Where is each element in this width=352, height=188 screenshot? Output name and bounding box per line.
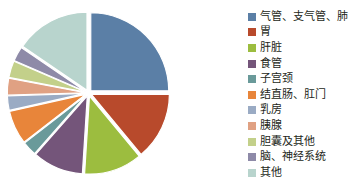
legend-item-label: 胃: [260, 26, 271, 38]
legend-item[interactable]: 结直肠、肛门: [240, 87, 352, 103]
legend-swatch-icon: [248, 138, 256, 146]
legend-item-label: 子宫颈: [260, 73, 293, 85]
legend-item[interactable]: 胃: [240, 25, 352, 41]
legend-swatch-icon: [248, 44, 256, 52]
pie-chart-plot-area: [0, 0, 240, 188]
pie-chart-figure: 气管、支气管、肺胃肝脏食管子宫颈结直肠、肛门乳房胰腺胆囊及其他脑、神经系统其他: [0, 0, 352, 188]
legend-item[interactable]: 肝脏: [240, 40, 352, 56]
legend-swatch-icon: [248, 122, 256, 130]
legend-item[interactable]: 乳房: [240, 103, 352, 119]
legend-swatch-icon: [248, 91, 256, 99]
legend-item[interactable]: 食管: [240, 56, 352, 72]
legend-swatch-icon: [248, 13, 256, 21]
legend-item[interactable]: 子宫颈: [240, 71, 352, 87]
legend-item-label: 结直肠、肛门: [260, 89, 326, 101]
legend-swatch-icon: [248, 169, 256, 177]
legend-swatch-icon: [248, 153, 256, 161]
pie-chart-svg: [0, 0, 240, 188]
legend-item[interactable]: 脑、神经系统: [240, 149, 352, 165]
legend-swatch-icon: [248, 75, 256, 83]
legend-item-label: 脑、神经系统: [260, 151, 326, 163]
legend-swatch-icon: [248, 28, 256, 36]
chart-legend: 气管、支气管、肺胃肝脏食管子宫颈结直肠、肛门乳房胰腺胆囊及其他脑、神经系统其他: [240, 0, 352, 188]
legend-item-label: 肝脏: [260, 42, 282, 54]
legend-item-label: 气管、支气管、肺: [260, 11, 348, 23]
legend-swatch-icon: [248, 60, 256, 68]
legend-item-label: 食管: [260, 58, 282, 70]
pie-slice-group: [7, 12, 169, 174]
legend-item-label: 其他: [260, 167, 282, 179]
pie-slice[interactable]: [91, 13, 169, 91]
legend-item[interactable]: 胰腺: [240, 118, 352, 134]
legend-swatch-icon: [248, 106, 256, 114]
legend-item[interactable]: 胆囊及其他: [240, 134, 352, 150]
legend-item[interactable]: 其他: [240, 165, 352, 181]
legend-item-label: 胆囊及其他: [260, 136, 315, 148]
legend-item-label: 乳房: [260, 104, 282, 116]
legend-item-label: 胰腺: [260, 120, 282, 132]
legend-item[interactable]: 气管、支气管、肺: [240, 9, 352, 25]
